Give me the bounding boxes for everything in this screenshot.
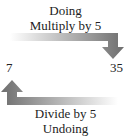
- undoing-arrow-shaft: [1, 80, 118, 105]
- undoing-label: Undoing: [0, 121, 131, 136]
- doing-arrow-shaft: [10, 33, 124, 59]
- multiply-label: Multiply by 5: [0, 18, 131, 33]
- doing-arrow: [10, 33, 124, 59]
- right-value: 35: [110, 60, 123, 75]
- divide-label: Divide by 5: [0, 106, 131, 121]
- undoing-arrow: [1, 80, 118, 105]
- doing-label: Doing: [0, 3, 131, 18]
- left-value: 7: [6, 60, 13, 75]
